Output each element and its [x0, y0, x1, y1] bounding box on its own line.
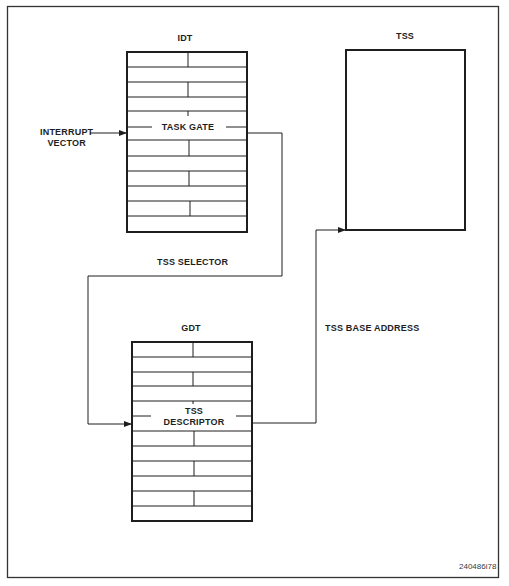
tss-selector-label: TSS SELECTOR [157, 257, 228, 268]
idt-title: IDT [177, 33, 192, 44]
gdt-title: GDT [181, 323, 201, 334]
interrupt-vector-label: INTERRUPT VECTOR [40, 127, 93, 149]
task-gate-diagram [0, 0, 509, 586]
idt-table [127, 52, 247, 232]
gdt-table [132, 342, 252, 521]
tss-descriptor-label: TSS DESCRIPTOR [164, 406, 225, 428]
tss-title: TSS [396, 31, 414, 42]
tss-descriptor-line2: DESCRIPTOR [164, 417, 225, 428]
interrupt-vector-line1: INTERRUPT [40, 127, 93, 138]
tss-base-address-label: TSS BASE ADDRESS [325, 323, 419, 334]
tss-descriptor-line1: TSS [164, 406, 225, 417]
task-gate-label: TASK GATE [162, 122, 214, 133]
interrupt-vector-line2: VECTOR [40, 138, 93, 149]
figure-id: 240486i78 [459, 562, 496, 571]
tss-box [346, 50, 465, 230]
